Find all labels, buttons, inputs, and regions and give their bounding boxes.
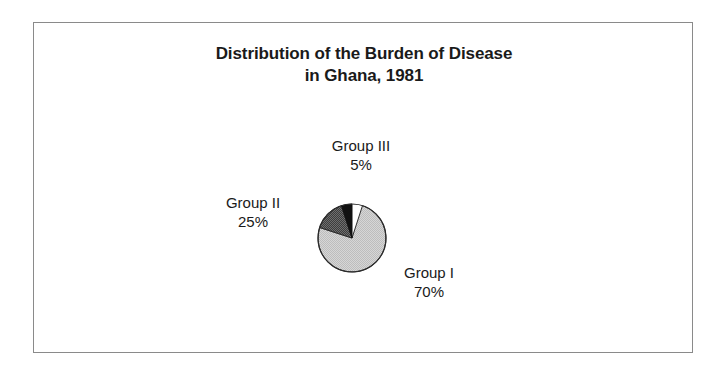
pie-label-group-iii-name: Group III — [306, 136, 416, 155]
chart-title-line-2: in Ghana, 1981 — [34, 65, 694, 87]
chart-title: Distribution of the Burden of Disease in… — [34, 43, 694, 87]
pie-chart — [318, 204, 386, 272]
pie-label-group-i-name: Group I — [374, 263, 484, 282]
figure-frame: Distribution of the Burden of Disease in… — [33, 22, 693, 353]
screenshot-root: Distribution of the Burden of Disease in… — [0, 0, 724, 373]
pie-chart-svg — [318, 204, 386, 272]
pie-label-group-ii-value: 25% — [198, 212, 308, 231]
pie-label-group-i-value: 70% — [374, 282, 484, 301]
pie-label-group-iii: Group III 5% — [306, 136, 416, 174]
pie-label-group-ii-name: Group II — [198, 193, 308, 212]
chart-title-line-1: Distribution of the Burden of Disease — [34, 43, 694, 65]
pie-label-group-iii-value: 5% — [306, 155, 416, 174]
pie-label-group-i: Group I 70% — [374, 263, 484, 301]
pie-label-group-ii: Group II 25% — [198, 193, 308, 231]
